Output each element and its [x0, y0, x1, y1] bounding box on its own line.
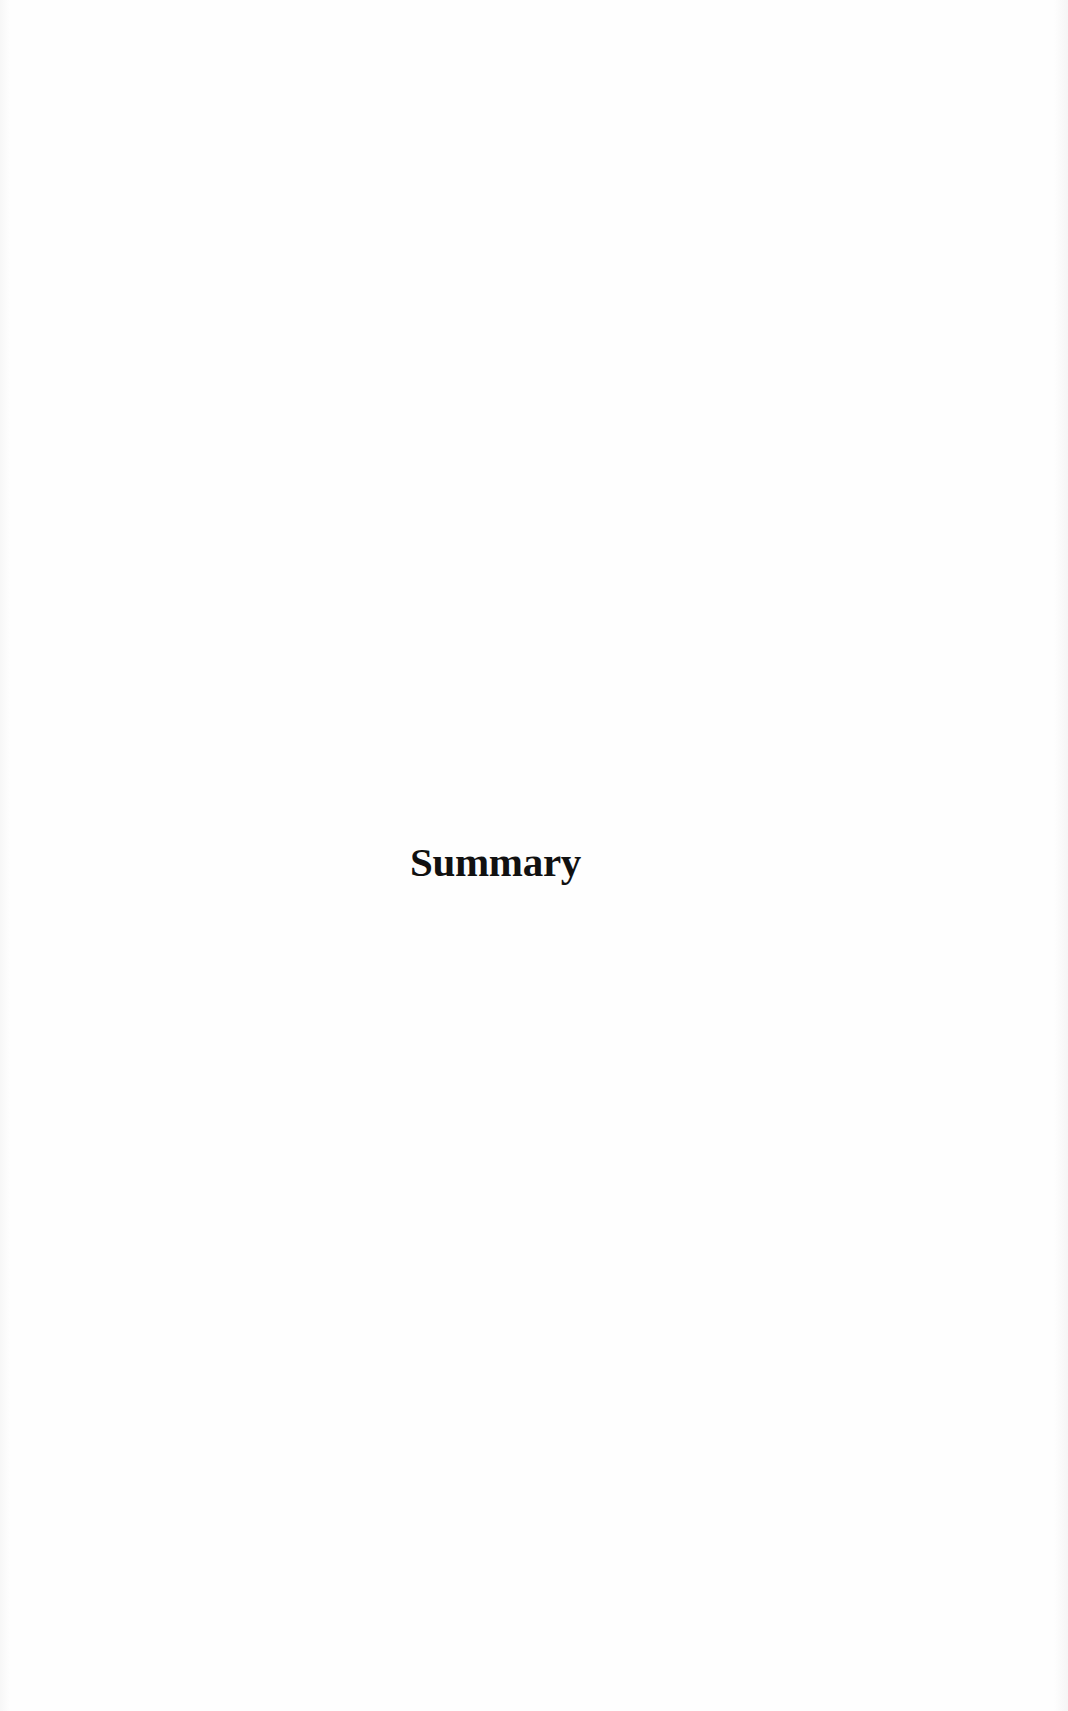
scan-edge-left — [0, 0, 10, 1711]
scan-edge-right — [1054, 0, 1068, 1711]
document-page: Summary — [0, 0, 1068, 1711]
section-heading: Summary — [410, 842, 581, 883]
